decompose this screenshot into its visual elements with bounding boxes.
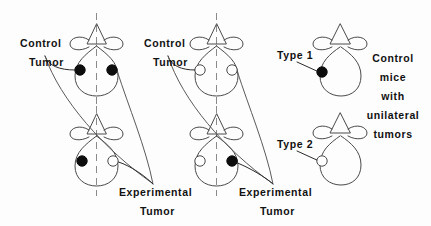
tumor-marker-open-right <box>108 156 118 166</box>
leader-control-long-left <box>45 56 152 183</box>
legend-caption: Control mice with unilateral tumors <box>367 52 420 140</box>
leader-type2 <box>297 151 317 160</box>
legend-caption-line-3: with <box>380 90 404 102</box>
leader-top-right-to-experimental <box>118 72 154 184</box>
legend-panel: Type 1 Type 2 Control mice with unilater… <box>277 24 419 185</box>
tumor-marker-filled-type1 <box>317 67 327 77</box>
mouse-ear-left-icon <box>70 127 89 140</box>
mouse-ear-right-icon <box>224 127 243 140</box>
leader-control-long-middle <box>168 56 272 183</box>
leader-top-right-to-experimental <box>238 72 274 184</box>
tumor-marker-open-type2 <box>317 156 327 166</box>
tumor-marker-open-left <box>195 156 205 166</box>
tumor-marker-open-right <box>227 65 237 75</box>
tumor-marker-open-left <box>195 65 205 75</box>
leader-experimental-tumor-left <box>119 162 154 184</box>
control-label-line2: Tumor <box>153 56 188 68</box>
legend-caption-line-1: Control <box>372 52 414 64</box>
mouse-ear-left-icon <box>70 37 89 50</box>
tumor-marker-filled-right <box>107 65 117 75</box>
leader-type1 <box>297 62 317 71</box>
mouse-snout-icon <box>330 113 350 133</box>
mouse-ear-right-icon <box>348 37 367 50</box>
leader-experimental-tumor-middle <box>238 163 274 184</box>
tumor-marker-filled-left <box>75 65 85 75</box>
tumor-marker-filled-right <box>227 156 237 166</box>
mouse-ear-right-icon <box>224 37 243 50</box>
experimental-label-line1: Experimental <box>239 186 312 198</box>
mouse-ear-right-icon <box>104 37 123 50</box>
mouse-ear-left-icon <box>190 127 209 140</box>
control-label-line1: Control <box>144 37 186 49</box>
control-label-line2: Tumor <box>29 56 64 68</box>
tumor-marker-filled-left <box>77 156 87 166</box>
mouse-ear-right-icon <box>104 127 123 140</box>
mouse-ear-left-icon <box>313 126 332 139</box>
mouse-ear-left-icon <box>313 37 332 50</box>
mouse-ear-right-icon <box>348 126 367 139</box>
legend-caption-line-4: unilateral <box>367 109 420 121</box>
experimental-label-line2: Tumor <box>260 205 295 217</box>
legend-type1-label: Type 1 <box>277 49 313 61</box>
mouse-ear-left-icon <box>190 37 209 50</box>
control-label-line1: Control <box>20 37 62 49</box>
experimental-label-line2: Tumor <box>140 205 175 217</box>
legend-caption-line-5: tumors <box>373 128 412 140</box>
tumor-implantation-figure: Control Tumor Experimental Tumor <box>0 0 431 226</box>
experimental-label-line1: Experimental <box>119 186 192 198</box>
legend-mouse-type1: Type 1 <box>277 24 367 96</box>
legend-mouse-type2: Type 2 <box>277 113 367 185</box>
legend-caption-line-2: mice <box>380 71 406 83</box>
mouse-snout-icon <box>330 24 350 44</box>
legend-type2-label: Type 2 <box>277 138 313 150</box>
